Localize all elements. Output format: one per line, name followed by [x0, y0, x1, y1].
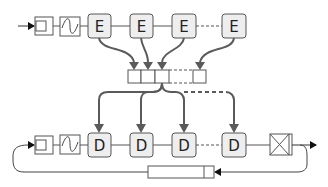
arrowhead-icon [94, 124, 239, 133]
delay-register-icon [148, 166, 214, 178]
arrowhead-icon [214, 168, 221, 176]
encoder-to-buffer-arrows [99, 38, 234, 62]
encoder-node: E [172, 14, 196, 38]
buffer [128, 70, 206, 83]
register-icon [35, 17, 53, 35]
arrowhead-icon [129, 62, 205, 70]
svg-text:D: D [136, 137, 148, 155]
decoder-node: D [222, 133, 246, 157]
svg-text:D: D [228, 137, 240, 155]
decoder-row: D D D D [30, 133, 316, 157]
encoder-node: E [88, 14, 111, 38]
svg-text:E: E [95, 18, 104, 36]
svg-text:D: D [178, 137, 190, 155]
decoder-node: D [130, 133, 153, 157]
decoder-node: D [88, 133, 111, 157]
decoder-node: D [172, 133, 196, 157]
svg-text:E: E [229, 18, 238, 36]
encoder-node: E [222, 14, 246, 38]
svg-text:D: D [94, 137, 106, 155]
register-icon [35, 136, 53, 154]
buffer-to-decoder-arrows [99, 83, 234, 124]
svg-text:E: E [179, 18, 188, 36]
encoder-row: E E E E [18, 14, 246, 38]
encoder-node: E [130, 14, 153, 38]
sine-wave-icon [60, 135, 80, 154]
svg-text:E: E [137, 18, 146, 36]
crossed-box-icon [270, 134, 292, 155]
sine-wave-icon [60, 17, 80, 36]
encoder-decoder-diagram: E E E E [0, 0, 328, 187]
